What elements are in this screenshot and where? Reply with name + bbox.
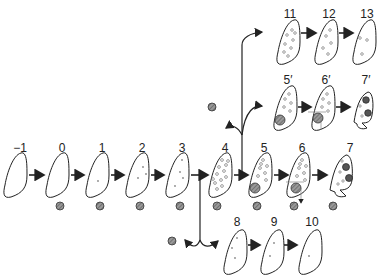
cell-shape	[274, 86, 297, 131]
marker-icon	[56, 202, 337, 210]
cell-shape	[315, 20, 338, 65]
cell-shape	[353, 20, 376, 65]
stage-label: 8	[234, 215, 241, 229]
cell-shape	[209, 153, 232, 198]
stage-label: 7′	[362, 73, 372, 87]
main-row: −1 0 1 2 3 4 5 6 7	[4, 141, 354, 210]
marker-icon	[168, 237, 176, 245]
stage-diagram: −1 0 1 2 3 4 5 6 7	[0, 0, 377, 280]
stage-label: 9	[271, 215, 278, 229]
stage-label: 12	[322, 7, 336, 21]
cell-shape	[126, 153, 149, 198]
cell-shape	[4, 153, 27, 198]
cell-shape	[308, 86, 335, 131]
cell-shape	[224, 230, 247, 275]
stage-label: 5′	[284, 73, 294, 87]
cell-shape	[330, 155, 353, 197]
cell-shape	[166, 153, 189, 198]
cell-shape	[249, 153, 272, 198]
cell-shape	[86, 153, 109, 198]
cell-shape	[299, 230, 322, 275]
cell-shape	[354, 92, 373, 129]
stage-label: 7	[347, 141, 354, 155]
marker-icon	[208, 103, 216, 111]
cell-shape	[261, 230, 284, 275]
inclusion-marker	[250, 183, 260, 193]
stage-label: 11	[284, 7, 297, 21]
stage-label: 10	[305, 215, 319, 229]
cell-shape	[277, 20, 300, 65]
cell-shape	[286, 153, 310, 203]
stage-label: 13	[360, 7, 374, 21]
stage-label: 6′	[322, 73, 332, 87]
cell-shape	[46, 153, 69, 198]
